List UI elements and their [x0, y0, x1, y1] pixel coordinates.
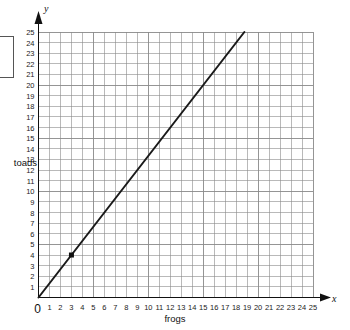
- svg-text:3: 3: [69, 303, 73, 312]
- svg-text:22: 22: [26, 60, 34, 69]
- x-axis-title: frogs: [0, 313, 350, 324]
- svg-text:1: 1: [47, 303, 51, 312]
- svg-text:17: 17: [221, 303, 229, 312]
- svg-text:6: 6: [102, 303, 106, 312]
- svg-text:9: 9: [30, 198, 34, 207]
- series-line: [39, 32, 245, 298]
- svg-text:16: 16: [26, 124, 34, 133]
- svg-text:25: 25: [26, 28, 34, 37]
- svg-text:6: 6: [30, 230, 34, 239]
- svg-text:23: 23: [26, 49, 34, 58]
- svg-text:5: 5: [30, 240, 34, 249]
- svg-text:15: 15: [199, 303, 207, 312]
- axis-lines: [35, 11, 332, 302]
- svg-text:10: 10: [26, 187, 34, 196]
- tick-labels: 0123456789101112131415161718192021222324…: [26, 28, 317, 316]
- svg-text:25: 25: [309, 303, 317, 312]
- svg-text:4: 4: [80, 303, 84, 312]
- x-axis-symbol: x: [331, 293, 337, 304]
- chart-canvas: 0123456789101112131415161718192021222324…: [0, 0, 350, 330]
- data-points: [69, 253, 74, 258]
- svg-text:4: 4: [30, 251, 34, 260]
- svg-text:16: 16: [210, 303, 218, 312]
- svg-text:7: 7: [113, 303, 117, 312]
- svg-text:11: 11: [27, 177, 35, 186]
- svg-text:9: 9: [135, 303, 139, 312]
- svg-text:18: 18: [232, 303, 240, 312]
- graph-svg: 0123456789101112131415161718192021222324…: [0, 0, 350, 330]
- svg-text:21: 21: [26, 70, 34, 79]
- y-axis-title: toads: [1, 157, 37, 168]
- svg-text:11: 11: [155, 303, 163, 312]
- svg-text:24: 24: [26, 39, 34, 48]
- svg-text:17: 17: [26, 113, 34, 122]
- svg-text:20: 20: [254, 303, 262, 312]
- svg-text:19: 19: [243, 303, 251, 312]
- svg-text:19: 19: [26, 92, 34, 101]
- svg-text:18: 18: [26, 102, 34, 111]
- svg-text:14: 14: [26, 145, 34, 154]
- svg-text:21: 21: [265, 303, 273, 312]
- gridlines: [39, 32, 314, 298]
- svg-text:3: 3: [30, 262, 34, 271]
- svg-text:23: 23: [287, 303, 295, 312]
- svg-text:14: 14: [188, 303, 196, 312]
- svg-text:7: 7: [30, 219, 34, 228]
- svg-text:5: 5: [91, 303, 95, 312]
- svg-text:8: 8: [30, 209, 34, 218]
- y-axis-symbol: y: [43, 3, 49, 14]
- svg-text:1: 1: [30, 283, 34, 292]
- svg-text:2: 2: [30, 272, 34, 281]
- svg-text:10: 10: [144, 303, 152, 312]
- svg-text:15: 15: [26, 134, 34, 143]
- svg-text:12: 12: [166, 303, 174, 312]
- svg-text:22: 22: [276, 303, 284, 312]
- svg-text:13: 13: [177, 303, 185, 312]
- svg-text:8: 8: [124, 303, 128, 312]
- svg-text:24: 24: [298, 303, 306, 312]
- svg-text:2: 2: [58, 303, 62, 312]
- svg-text:20: 20: [26, 81, 34, 90]
